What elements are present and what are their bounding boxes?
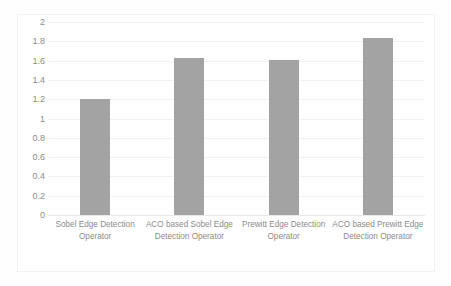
x-axis: Sobel Edge Detection OperatorACO based S… <box>48 219 425 269</box>
x-axis-category-label: Prewitt Edge Detection Operator <box>238 219 330 242</box>
y-axis-tick-label: 1.8 <box>32 37 45 46</box>
y-axis-tick-label: 0.4 <box>32 172 45 181</box>
y-axis-tick-label: 2 <box>40 18 45 27</box>
y-axis-tick-label: 1.6 <box>32 56 45 65</box>
bars-layer <box>48 22 425 215</box>
y-axis-tick-label: 0 <box>40 211 45 220</box>
bar <box>269 60 299 215</box>
y-axis: 21.81.61.41.210.80.60.40.20 <box>17 22 45 215</box>
x-axis-category-label: ACO based Prewitt Edge Detection Operato… <box>332 219 424 242</box>
bar <box>174 58 204 215</box>
y-axis-tick-label: 1 <box>40 114 45 123</box>
x-axis-category-label: ACO based Sobel Edge Detection Operator <box>143 219 235 242</box>
bar-chart-figure: 21.81.61.41.210.80.60.40.20 Sobel Edge D… <box>0 0 451 286</box>
bar <box>80 99 110 215</box>
y-axis-tick-label: 1.2 <box>32 95 45 104</box>
y-axis-tick-label: 0.6 <box>32 153 45 162</box>
y-axis-tick-label: 0.8 <box>32 133 45 142</box>
y-axis-tick-label: 0.2 <box>32 191 45 200</box>
y-axis-tick-label: 1.4 <box>32 75 45 84</box>
bar <box>363 38 393 215</box>
gridline <box>48 215 425 216</box>
x-axis-category-label: Sobel Edge Detection Operator <box>49 219 141 242</box>
